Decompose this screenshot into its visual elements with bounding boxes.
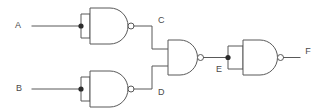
gate-bottom-input-junction-dot <box>78 86 83 91</box>
gate-middle-inversion-bubble <box>198 55 204 61</box>
gate-bottom-nand <box>32 71 134 107</box>
gate-output-nand <box>225 40 283 75</box>
gate-top-body <box>90 8 128 44</box>
gate-output-body <box>243 40 277 75</box>
wire-net-d <box>134 66 168 89</box>
label-node-d: D <box>158 87 165 97</box>
gate-middle-body <box>168 40 197 75</box>
label-node-e: E <box>216 64 222 74</box>
gate-top-inversion-bubble <box>128 23 134 29</box>
gate-bottom-inversion-bubble <box>128 86 134 92</box>
label-input-b: B <box>16 83 22 93</box>
logic-circuit-diagram: A B C D E F <box>0 0 326 112</box>
gate-middle-nand <box>168 40 204 75</box>
label-output-f: F <box>305 46 311 56</box>
label-node-c: C <box>158 15 165 25</box>
circuit-schematic-svg: A B C D E F <box>0 0 326 112</box>
gate-output-input-junction-dot <box>225 55 230 60</box>
gate-top-input-junction-dot <box>78 23 83 28</box>
gate-output-inversion-bubble <box>278 55 284 61</box>
gate-bottom-body <box>90 71 128 107</box>
label-input-a: A <box>15 20 21 30</box>
wire-net-c <box>134 26 168 49</box>
gate-top-nand <box>32 8 134 44</box>
